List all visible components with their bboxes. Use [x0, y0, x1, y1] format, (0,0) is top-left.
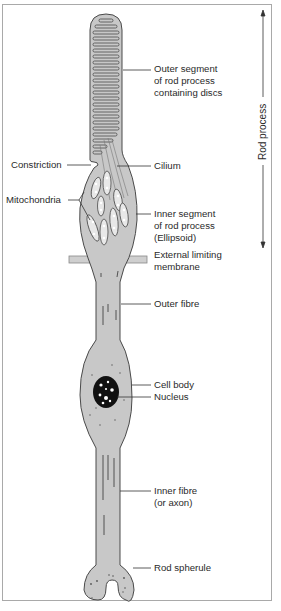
label-constriction: Constriction [11, 159, 62, 171]
label-external-limiting-membrane: External limiting membrane [154, 249, 222, 273]
label-rod-process: Rod process [257, 104, 268, 160]
rod-cell-illustration [0, 0, 281, 611]
label-outer-fibre: Outer fibre [154, 298, 199, 310]
label-cilium: Cilium [154, 160, 181, 172]
label-nucleus: Nucleus [154, 391, 189, 403]
label-outer-segment: Outer segment of rod process containing … [154, 63, 222, 99]
label-mitochondria: Mitochondria [6, 194, 61, 206]
label-cell-body: Cell body [154, 379, 194, 391]
label-inner-segment: Inner segment of rod process (Ellipsoid) [154, 208, 215, 244]
label-rod-spherule: Rod spherule [154, 562, 211, 574]
nucleus [93, 376, 119, 408]
label-inner-fibre: Inner fibre (or axon) [154, 485, 197, 509]
